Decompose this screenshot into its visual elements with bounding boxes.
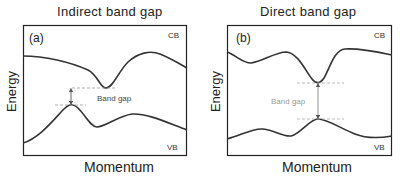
panel-a: (a) CB VB Band gap (23, 26, 187, 156)
panel-b-vb-label: VB (374, 143, 385, 152)
panel-b-conduction-band (227, 49, 392, 83)
panel-b-label: (b) (236, 31, 251, 45)
panel-a-valence-band (23, 105, 187, 143)
panel-a-cb-label: CB (168, 31, 179, 40)
panel-a-gap-label: Band gap (97, 94, 132, 103)
panel-b-frame (228, 26, 392, 156)
panel-a-frame (24, 26, 187, 156)
panel-b-valence-band (227, 119, 392, 139)
panel-a-label: (a) (29, 31, 44, 45)
band-diagrams: (a) CB VB Band gap (b) CB VB Band gap (0, 0, 403, 182)
panel-a-conduction-band (23, 52, 187, 88)
panel-b-cb-label: CB (374, 31, 385, 40)
panel-a-vb-label: VB (167, 143, 178, 152)
panel-b: (b) CB VB Band gap (227, 26, 392, 156)
panel-b-gap-label: Band gap (271, 97, 306, 106)
